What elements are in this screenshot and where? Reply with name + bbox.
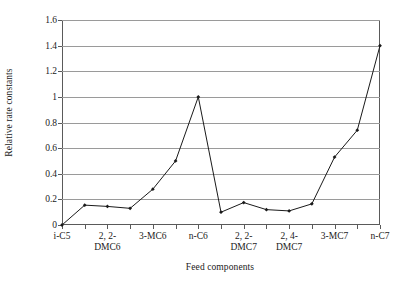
x-tick-mark: [266, 225, 267, 229]
x-tick-mark: [380, 225, 381, 229]
y-tick-label: 0.4: [45, 169, 57, 179]
data-point-marker: [242, 201, 246, 205]
y-tick-label: 1.2: [45, 66, 57, 76]
data-point-marker: [287, 209, 291, 213]
plot-area: 00.20.40.60.811.21.41.6 i-C52, 2- DMC63-…: [62, 20, 380, 225]
y-tick-label: 0.2: [45, 194, 57, 204]
data-point-marker: [265, 208, 269, 212]
data-point-marker: [196, 95, 200, 99]
x-tick-label: 3-MC7: [309, 231, 361, 242]
y-tick-label: 0.6: [45, 143, 57, 153]
x-tick-label: 2, 2- DMC7: [218, 231, 270, 253]
x-tick-label: 2, 4- DMC7: [263, 231, 315, 253]
y-axis-title: Relative rate constants: [0, 0, 18, 225]
data-point-marker: [310, 202, 314, 206]
x-tick-label: i-C5: [36, 231, 88, 242]
x-tick-mark: [289, 225, 290, 229]
x-tick-mark: [244, 225, 245, 229]
y-tick-label: 0: [52, 220, 57, 230]
x-tick-mark: [130, 225, 131, 229]
chart-figure: Relative rate constants 00.20.40.60.811.…: [0, 0, 414, 285]
x-tick-mark: [312, 225, 313, 229]
x-axis-title: Feed components: [55, 262, 385, 272]
x-tick-label: 3-MC6: [127, 231, 179, 242]
x-tick-mark: [221, 225, 222, 229]
x-tick-label: 2, 2- DMC6: [81, 231, 133, 253]
data-point-marker: [219, 210, 223, 214]
y-tick-label: 1.6: [45, 15, 57, 25]
y-tick-label: 0.8: [45, 118, 57, 128]
x-tick-mark: [107, 225, 108, 229]
x-tick-mark: [153, 225, 154, 229]
data-point-marker: [106, 205, 110, 209]
x-tick-mark: [198, 225, 199, 229]
series-line: [62, 20, 380, 225]
x-tick-label: n-C6: [172, 231, 224, 242]
y-tick-label: 1.4: [45, 41, 57, 51]
x-tick-mark: [85, 225, 86, 229]
x-tick-mark: [335, 225, 336, 229]
x-tick-mark: [357, 225, 358, 229]
data-point-marker: [378, 44, 382, 48]
data-line: [62, 46, 380, 225]
x-tick-mark: [176, 225, 177, 229]
x-tick-label: n-C7: [354, 231, 406, 242]
y-tick-label: 1: [52, 92, 57, 102]
